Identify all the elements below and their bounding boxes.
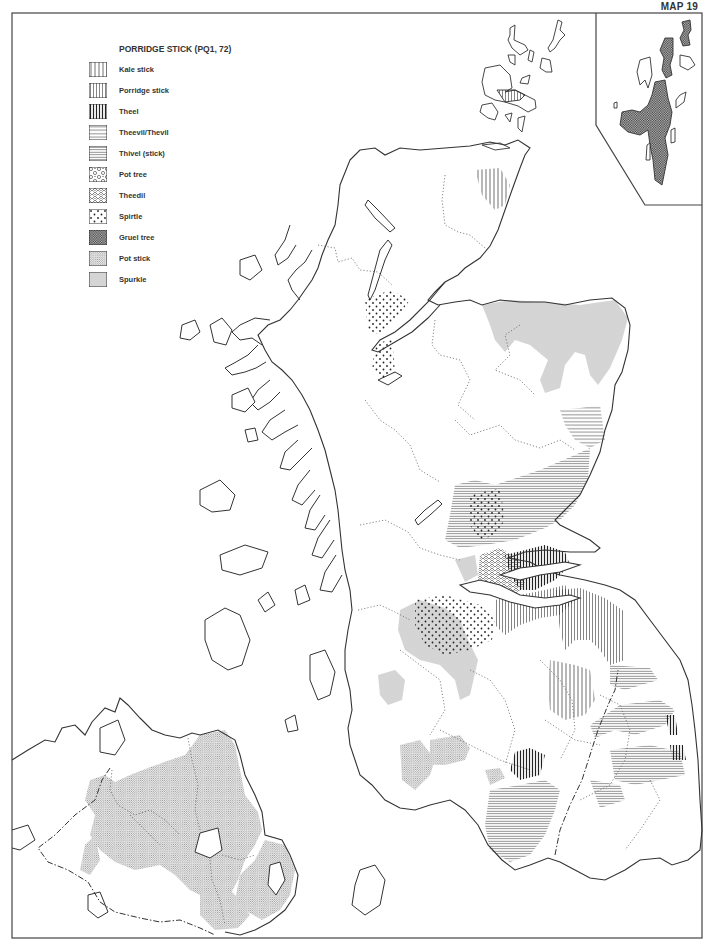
kale-stick-swatch-icon bbox=[89, 62, 107, 77]
legend-item-spirtle: Spirtle bbox=[89, 209, 269, 225]
legend-label: Spurkle bbox=[119, 275, 147, 284]
legend-item-kale-stick: Kale stick bbox=[89, 62, 269, 78]
legend-label: Porridge stick bbox=[119, 86, 169, 95]
legend-label: Theedil bbox=[119, 191, 145, 200]
theel-swatch-icon bbox=[89, 104, 107, 119]
legend-label: Pot tree bbox=[119, 170, 147, 179]
legend-label: Theevil/Thevil bbox=[119, 128, 169, 137]
legend-item-pot-stick: Pot stick bbox=[89, 251, 269, 267]
legend-item-theevil: Theevil/Thevil bbox=[89, 125, 269, 141]
legend-item-theel: Theel bbox=[89, 104, 269, 120]
pot-tree-swatch-icon bbox=[89, 167, 107, 182]
legend-label: Kale stick bbox=[119, 65, 154, 74]
map-number-label: MAP 19 bbox=[661, 1, 698, 12]
legend-title: PORRIDGE STICK (PQ1, 72) bbox=[119, 44, 231, 54]
northern-ireland bbox=[12, 698, 298, 935]
legend-item-theedil: Theedil bbox=[89, 188, 269, 204]
shetland-islands bbox=[614, 20, 695, 185]
legend-label: Pot stick bbox=[119, 254, 150, 263]
legend-item-pot-tree: Pot tree bbox=[89, 167, 269, 183]
gruel-tree-swatch-icon bbox=[89, 230, 107, 245]
theedil-swatch-icon bbox=[89, 188, 107, 203]
legend-item-thivel: Thivel (stick) bbox=[89, 146, 269, 162]
thivel-swatch-icon bbox=[89, 146, 107, 161]
legend-item-spurkle: Spurkle bbox=[89, 272, 269, 288]
legend-label: Thivel (stick) bbox=[119, 149, 165, 158]
theevil-swatch-icon bbox=[89, 125, 107, 140]
legend-label: Spirtle bbox=[119, 212, 142, 221]
pot-stick-swatch-icon bbox=[89, 251, 107, 266]
legend-label: Gruel tree bbox=[119, 233, 154, 242]
dialect-map bbox=[0, 0, 706, 945]
porridge-stick-swatch-icon bbox=[89, 83, 107, 98]
legend-label: Theel bbox=[119, 107, 139, 116]
legend-item-gruel-tree: Gruel tree bbox=[89, 230, 269, 246]
orkney-islands bbox=[480, 20, 565, 150]
legend-item-porridge-stick: Porridge stick bbox=[89, 83, 269, 99]
spirtle-swatch-icon bbox=[89, 209, 107, 224]
spurkle-swatch-icon bbox=[89, 272, 107, 287]
